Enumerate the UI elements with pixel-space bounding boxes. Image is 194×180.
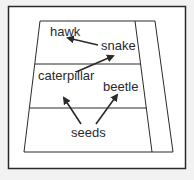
label-seeds: seeds: [71, 125, 106, 140]
label-beetle: beetle: [103, 79, 138, 94]
label-hawk: hawk: [50, 24, 81, 39]
label-caterpillar: caterpillar: [38, 68, 95, 83]
food-pyramid-diagram: hawk snake caterpillar beetle seeds: [0, 0, 194, 180]
label-snake: snake: [101, 38, 136, 53]
